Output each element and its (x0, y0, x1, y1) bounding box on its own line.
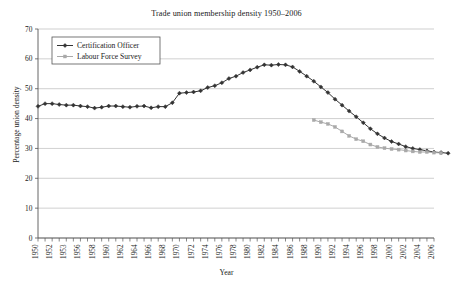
x-tick-label: 1958 (89, 244, 97, 259)
data-point-marker (369, 143, 372, 146)
data-point-marker (376, 145, 379, 148)
x-tick-label: 1964 (131, 244, 139, 259)
data-point-marker (156, 105, 160, 109)
data-point-marker (276, 63, 280, 67)
y-axis-group: 010203040506070 (25, 25, 38, 243)
x-tick-label: 1966 (145, 244, 153, 259)
x-tick-label: 2002 (400, 244, 408, 259)
x-tick-label: 1996 (357, 244, 365, 259)
x-tick-label: 1988 (301, 244, 309, 259)
data-point-marker (241, 71, 245, 75)
data-point-marker (43, 102, 47, 106)
x-tick-label: 1990 (315, 244, 323, 259)
x-tick-label: 1972 (188, 244, 196, 259)
y-tick-label: 10 (25, 204, 33, 213)
data-point-marker (78, 104, 82, 108)
x-axis-group: 1950195219531956195819601962196419661968… (32, 238, 436, 259)
data-point-marker (440, 151, 443, 154)
x-tick-label: 1962 (117, 244, 125, 259)
chart-legend: Certification OfficerLabour Force Survey (52, 37, 160, 64)
data-point-marker (411, 150, 414, 153)
data-point-marker (93, 106, 97, 110)
data-point-marker (234, 74, 238, 78)
y-tick-label: 50 (25, 84, 33, 93)
data-point-marker (390, 140, 394, 144)
y-tick-label: 20 (25, 174, 33, 183)
x-tick-label: 1984 (272, 244, 280, 259)
data-point-marker (397, 142, 401, 146)
data-point-marker (71, 103, 75, 107)
data-point-marker (248, 68, 252, 72)
plot-area: 010203040506070 195019521953195619581960… (0, 0, 453, 285)
data-point-marker (128, 105, 132, 109)
data-point-marker (404, 149, 407, 152)
data-point-marker (284, 63, 288, 67)
x-tick-label: 1950 (32, 244, 40, 259)
data-point-marker (100, 105, 104, 109)
x-tick-label: 1986 (287, 244, 295, 259)
data-point-marker (135, 104, 139, 108)
data-point-marker (64, 55, 67, 58)
data-point-marker (142, 104, 146, 108)
x-tick-label: 1982 (258, 244, 266, 259)
data-point-marker (86, 105, 90, 109)
data-point-marker (163, 105, 167, 109)
data-point-marker (362, 140, 365, 143)
data-point-marker (319, 121, 322, 124)
data-point-marker (199, 89, 203, 93)
x-tick-label: 1960 (103, 244, 111, 259)
x-tick-label: 1994 (343, 244, 351, 259)
data-point-marker (326, 122, 329, 125)
x-tick-label: 1998 (371, 244, 379, 259)
series-line-0 (38, 65, 448, 154)
x-tick-label: 1976 (216, 244, 224, 259)
y-tick-label: 30 (25, 144, 33, 153)
y-tick-label: 40 (25, 114, 33, 123)
data-point-marker (213, 84, 217, 88)
y-tick-label: 60 (25, 54, 33, 63)
x-tick-label: 1978 (230, 244, 238, 259)
data-point-marker (36, 104, 40, 108)
data-point-marker (192, 90, 196, 94)
data-point-marker (348, 134, 351, 137)
y-tick-label: 0 (29, 234, 33, 243)
data-point-marker (446, 151, 450, 155)
data-point-marker (50, 102, 54, 106)
data-point-marker (383, 147, 386, 150)
y-tick-label: 70 (25, 25, 33, 34)
series-group (36, 63, 450, 156)
x-tick-label: 1968 (159, 244, 167, 259)
data-point-marker (121, 105, 125, 109)
data-point-marker (262, 63, 266, 67)
legend-label-0: Certification Officer (77, 41, 140, 50)
x-tick-label: 1956 (74, 244, 82, 259)
data-point-marker (107, 104, 111, 108)
data-point-marker (390, 148, 393, 151)
data-point-marker (185, 91, 189, 95)
data-point-marker (341, 130, 344, 133)
x-tick-label: 2000 (386, 244, 394, 259)
data-point-marker (404, 145, 408, 149)
data-point-marker (334, 125, 337, 128)
data-point-marker (433, 151, 436, 154)
data-point-marker (269, 63, 273, 67)
data-point-marker (355, 138, 358, 141)
data-point-marker (397, 148, 400, 151)
x-tick-label: 1953 (60, 244, 68, 259)
x-tick-label: 1992 (329, 244, 337, 259)
data-point-marker (418, 151, 421, 154)
data-point-marker (64, 103, 68, 107)
data-point-marker (312, 119, 315, 122)
x-tick-label: 1980 (244, 244, 252, 259)
x-tick-label: 2004 (414, 244, 422, 259)
data-point-marker (57, 103, 61, 107)
data-point-marker (425, 151, 428, 154)
data-point-marker (149, 106, 153, 110)
x-tick-label: 1974 (202, 244, 210, 259)
chart-figure: Trade union membership density 1950–2006… (0, 0, 453, 285)
legend-label-1: Labour Force Survey (77, 52, 142, 61)
x-tick-label: 1952 (46, 244, 54, 259)
x-tick-label: 2006 (428, 244, 436, 259)
data-point-marker (114, 104, 118, 108)
data-point-marker (255, 65, 259, 69)
